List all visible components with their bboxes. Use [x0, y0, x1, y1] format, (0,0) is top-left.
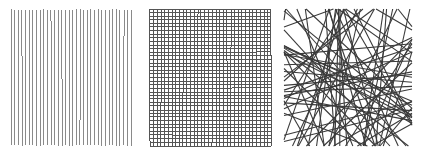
- parallel-lines-svg: [0, 0, 141, 154]
- random-line: [284, 110, 412, 142]
- parallel-line: [109, 10, 110, 146]
- random-lines-svg: [278, 0, 419, 154]
- panel-parallel-lines: [0, 0, 141, 154]
- grid-horizontal-line: [150, 48, 271, 49]
- panel-grid-lines: [140, 0, 281, 154]
- parallel-line: [43, 9, 44, 145]
- grid-horizontal-line: [150, 30, 271, 31]
- parallel-line: [98, 9, 99, 145]
- random-line: [398, 9, 412, 27]
- panel-random-lines: [278, 0, 419, 154]
- random-line: [284, 113, 367, 146]
- grid-horizontal-line: [150, 88, 271, 89]
- figure-root: [0, 0, 422, 154]
- grid-lines-svg: [140, 0, 281, 154]
